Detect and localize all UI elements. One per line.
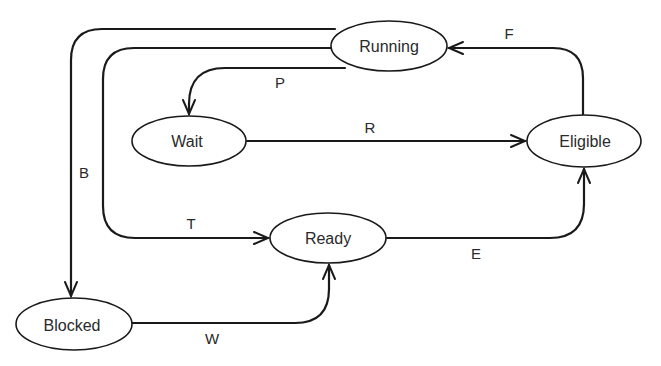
edge-label-f: F [504,25,513,42]
node-label-running: Running [359,38,419,55]
edge-r: R [247,119,525,148]
edge-label-e: E [471,245,481,262]
edge-label-r: R [365,119,376,136]
edge-label-b: B [79,164,89,181]
edge-label-p: P [275,74,285,91]
edge-label-w: W [205,330,220,347]
edge-w: W [132,265,335,347]
node-label-eligible: Eligible [559,133,611,150]
edge-p: P [183,68,345,114]
node-eligible: Eligible [527,115,641,167]
edge-f: F [449,25,583,117]
node-blocked: Blocked [16,298,132,350]
edge-e: E [387,169,590,262]
node-label-ready: Ready [305,230,351,247]
node-label-blocked: Blocked [44,317,101,334]
edge-label-t: T [186,215,195,232]
node-ready: Ready [270,213,386,263]
node-wait: Wait [132,116,246,166]
node-running: Running [331,21,447,71]
node-label-wait: Wait [171,133,203,150]
state-diagram: B T P F R E W Running [0,0,661,366]
